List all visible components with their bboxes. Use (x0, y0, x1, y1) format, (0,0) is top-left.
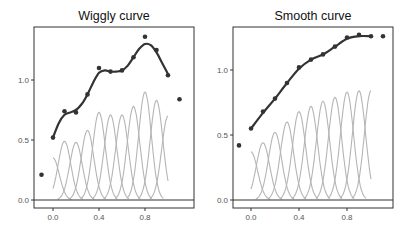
wiggly-curve-panel: Wiggly curve0.00.51.00.00.40.8 (18, 9, 194, 222)
data-point (249, 126, 254, 131)
y-tick-label: 0.5 (18, 136, 30, 145)
x-tick-label: 0.4 (293, 213, 305, 222)
data-point (345, 35, 350, 40)
data-point (357, 33, 362, 38)
data-point (51, 135, 56, 140)
basis-function-curve (340, 91, 371, 198)
data-point (261, 109, 266, 114)
data-point (120, 68, 125, 73)
x-tick-label: 0.8 (139, 213, 151, 222)
data-point (285, 81, 290, 86)
y-tick-label: 0.0 (18, 196, 30, 205)
data-point (131, 55, 136, 60)
fitted-curve (251, 36, 371, 128)
data-point (237, 143, 242, 148)
basis-function-curve (104, 115, 141, 199)
plot-frame (233, 27, 393, 208)
data-point (333, 44, 338, 49)
plot-frame (34, 27, 194, 208)
data-point (166, 73, 171, 78)
data-point (369, 34, 374, 39)
y-tick-label: 0.5 (217, 131, 229, 140)
chart-title: Wiggly curve (78, 9, 150, 23)
data-point (321, 52, 326, 57)
data-point (154, 48, 159, 53)
data-point (177, 97, 182, 102)
basis-function-curve (53, 141, 83, 199)
data-point (39, 173, 44, 178)
basis-function-curve (58, 142, 95, 199)
x-tick-label: 0.0 (245, 213, 257, 222)
data-point (62, 109, 67, 114)
chart-title: Smooth curve (274, 9, 351, 23)
chart-canvas: Wiggly curve0.00.51.00.00.40.8 Smooth cu… (0, 0, 406, 233)
y-tick-label: 1.0 (18, 76, 30, 85)
data-point (309, 57, 314, 62)
basis-function-curve (92, 115, 129, 199)
data-point (297, 65, 302, 70)
data-point (143, 35, 148, 40)
data-point (273, 96, 278, 101)
data-point (74, 110, 79, 115)
data-point (97, 66, 102, 71)
y-tick-label: 1.0 (217, 66, 229, 75)
smooth-curve-panel: Smooth curve0.00.51.00.00.40.8 (217, 9, 393, 222)
x-tick-label: 0.0 (47, 213, 59, 222)
x-tick-label: 0.8 (341, 213, 353, 222)
x-tick-label: 0.4 (93, 213, 105, 222)
data-point (108, 69, 113, 74)
data-point (85, 92, 90, 97)
data-point (381, 34, 386, 39)
y-tick-label: 0.0 (217, 196, 229, 205)
